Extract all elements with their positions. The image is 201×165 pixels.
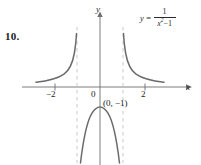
x-tick-label-negative-two: −2	[46, 89, 56, 99]
equation-equals-sign: =	[146, 13, 151, 23]
x-tick-label-zero: 0	[91, 89, 96, 99]
y-axis-label: y	[96, 4, 100, 14]
curve-left-branch	[36, 34, 77, 83]
curve-right-branch	[124, 34, 165, 83]
equation-numerator: 1	[161, 8, 169, 16]
equation-label: y = 1 x2−1	[140, 8, 176, 28]
figure-container: 10. y x −2 0 2 (0, −1) y = 1	[0, 0, 201, 165]
denominator-one: 1	[168, 19, 172, 28]
x-tick-label-positive-two: 2	[141, 89, 146, 99]
point-annotation-label: (0, −1)	[103, 98, 128, 108]
equation-fraction: 1 x2−1	[154, 8, 176, 28]
x-axis-label: x	[186, 82, 190, 92]
equation-lhs: y	[140, 13, 144, 23]
equation-denominator: x2−1	[155, 18, 174, 28]
